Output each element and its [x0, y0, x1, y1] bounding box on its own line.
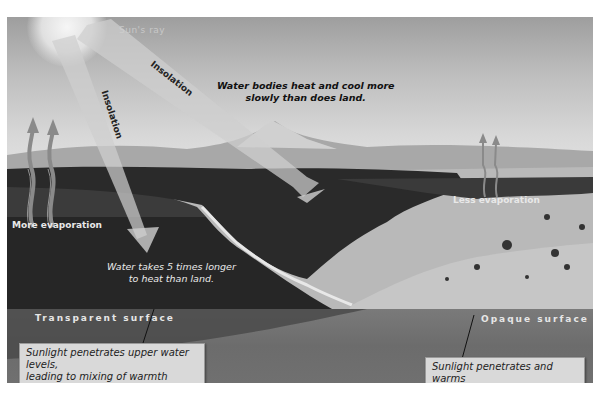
water-caption-line-2: to heat than land.: [107, 273, 236, 285]
callout-land: Sunlight penetrates and warms only a few…: [425, 357, 585, 383]
more-evaporation-label: More evaporation: [12, 220, 102, 230]
opaque-surface-label: Opaque surface: [481, 314, 589, 324]
transparent-surface-label: Transparent surface: [35, 313, 175, 323]
water-caption-line-1: Water takes 5 times longer: [107, 261, 236, 273]
callout-water-line-1: Sunlight penetrates upper water levels,: [26, 347, 198, 371]
less-evaporation-label: Less evaporation: [453, 195, 540, 205]
callout-land-line-1: Sunlight penetrates and warms: [432, 361, 578, 383]
top-caption-line-2: slowly than does land.: [217, 92, 395, 104]
callout-water-line-2: leading to mixing of warmth: [26, 371, 198, 383]
water-caption: Water takes 5 times longer to heat than …: [107, 261, 236, 285]
diagram-frame: Sun's ray Insolation Insolat: [7, 17, 593, 383]
top-caption: Water bodies heat and cool more slowly t…: [217, 80, 395, 104]
top-caption-line-1: Water bodies heat and cool more: [217, 80, 395, 92]
callout-water: Sunlight penetrates upper water levels, …: [19, 343, 205, 383]
